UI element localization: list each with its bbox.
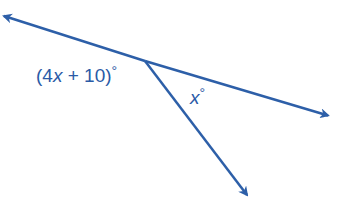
degree-symbol: °	[200, 85, 206, 101]
down-ray	[145, 61, 247, 195]
angle-label-right: x°	[190, 88, 205, 107]
label-open: (4	[36, 65, 53, 86]
label-variable: x	[53, 65, 63, 86]
label-rest: + 10)	[62, 65, 111, 86]
label-variable: x	[190, 87, 200, 108]
diagram-lines	[0, 0, 346, 208]
angle-diagram: (4x + 10)° x°	[0, 0, 346, 208]
angle-label-left: (4x + 10)°	[36, 66, 117, 85]
left-ray	[4, 16, 145, 61]
degree-symbol: °	[112, 63, 118, 79]
right-ray	[145, 61, 328, 116]
